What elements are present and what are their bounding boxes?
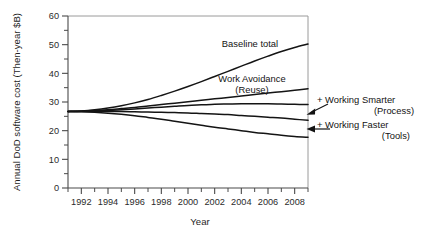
y-tick-label: 20 bbox=[49, 126, 59, 136]
x-tick-label: 1996 bbox=[124, 197, 144, 207]
line-chart: 0102030405060 19921994199619982000200220… bbox=[0, 0, 421, 242]
y-tick-label: 10 bbox=[49, 155, 59, 165]
y-tick-label: 60 bbox=[49, 11, 59, 21]
y-tick-label: 30 bbox=[49, 97, 59, 107]
y-axis-title: Annual DoD software cost (Then-year $B) bbox=[11, 13, 22, 191]
x-tick-label: 1992 bbox=[71, 197, 91, 207]
annotation-working-smarter: + Working Smarter bbox=[317, 94, 395, 105]
x-tick-label: 2004 bbox=[231, 197, 251, 207]
y-tick-label: 40 bbox=[49, 69, 59, 79]
y-tick-label: 0 bbox=[54, 183, 59, 193]
chart-figure: 0102030405060 19921994199619982000200220… bbox=[0, 0, 421, 242]
x-tick-label: 2008 bbox=[284, 197, 304, 207]
annotation-working-faster-sub: (Tools) bbox=[382, 130, 410, 141]
annotation-working-faster: + Working Faster bbox=[317, 119, 388, 130]
x-tick-label: 1998 bbox=[151, 197, 171, 207]
annotation-baseline-total: Baseline total bbox=[222, 38, 278, 49]
y-tick-label: 50 bbox=[49, 40, 59, 50]
x-axis-tick-labels: 199219941996199820002002200420062008 bbox=[71, 197, 305, 207]
x-axis-title: Year bbox=[190, 216, 210, 227]
annotation-working-smarter-sub: (Process) bbox=[374, 105, 414, 116]
annotation-work-avoidance-sub: (Reuse) bbox=[235, 84, 268, 95]
x-tick-label: 2002 bbox=[204, 197, 224, 207]
x-tick-label: 1994 bbox=[98, 197, 118, 207]
annotation-work-avoidance: Work Avoidance bbox=[218, 73, 285, 84]
x-tick-label: 2000 bbox=[178, 197, 198, 207]
x-tick-label: 2006 bbox=[258, 197, 278, 207]
